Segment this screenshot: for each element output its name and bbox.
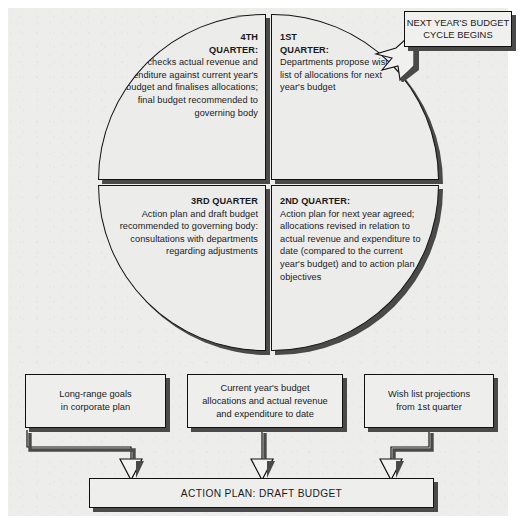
diagram-canvas: 4TH QUARTER: Director checks actual reve… — [0, 0, 522, 524]
quadrant-4th-text: 4TH QUARTER: Director checks actual reve… — [108, 31, 258, 119]
quadrant-3rd-text: 3RD QUARTER Action plan and draft budget… — [103, 195, 258, 258]
quadrant-2nd-body: Action plan for next year agreed; alloca… — [280, 209, 421, 282]
box-long-range-goals-line1: Long-range goals — [59, 389, 131, 399]
box-wish-list-line1: Wish list projections — [388, 389, 470, 399]
box-current-year-budget-text: Current year's budget allocations and ac… — [202, 382, 328, 421]
box-current-year-budget[interactable]: Current year's budget allocations and ac… — [187, 374, 343, 428]
quadrant-2nd-text: 2ND QUARTER: Action plan for next year a… — [280, 195, 422, 283]
quadrant-4th-body: Director checks actual revenue and expen… — [112, 57, 258, 117]
box-wish-list-line2: from 1st quarter — [396, 402, 462, 412]
box-current-year-budget-line2: allocations and actual revenue — [202, 396, 328, 406]
quadrant-1st-heading-line1: 1ST — [280, 32, 297, 42]
quadrant-4th[interactable]: 4TH QUARTER: Director checks actual reve… — [98, 14, 266, 180]
action-plan-bar[interactable]: ACTION PLAN: DRAFT BUDGET — [89, 478, 434, 508]
callout-text: NEXT YEAR'S BUDGET CYCLE BEGINS — [407, 17, 510, 41]
quadrant-3rd-body: Action plan and draft budget recommended… — [120, 209, 258, 257]
box-wish-list[interactable]: Wish list projections from 1st quarter — [364, 374, 494, 428]
callout-line1: NEXT YEAR'S BUDGET — [407, 17, 510, 28]
action-plan-bar-label: ACTION PLAN: DRAFT BUDGET — [181, 488, 342, 499]
quadrant-3rd-heading-line1: 3RD QUARTER — [191, 196, 258, 206]
box-wish-list-text: Wish list projections from 1st quarter — [388, 388, 470, 414]
quadrant-1st-heading-line2: QUARTER: — [280, 45, 329, 55]
box-current-year-budget-line1: Current year's budget — [220, 383, 309, 393]
quadrant-4th-heading-line2: QUARTER: — [209, 45, 258, 55]
quadrant-2nd-heading-line1: 2ND QUARTER: — [280, 196, 350, 206]
box-long-range-goals-text: Long-range goals in corporate plan — [59, 388, 131, 414]
quadrant-4th-heading-line1: 4TH — [240, 32, 258, 42]
box-long-range-goals-line2: in corporate plan — [61, 402, 130, 412]
callout-line2: CYCLE BEGINS — [423, 29, 492, 40]
box-current-year-budget-line3: and expenditure to date — [216, 409, 314, 419]
callout-next-year-budget[interactable]: NEXT YEAR'S BUDGET CYCLE BEGINS — [404, 11, 512, 47]
box-long-range-goals[interactable]: Long-range goals in corporate plan — [25, 374, 166, 428]
